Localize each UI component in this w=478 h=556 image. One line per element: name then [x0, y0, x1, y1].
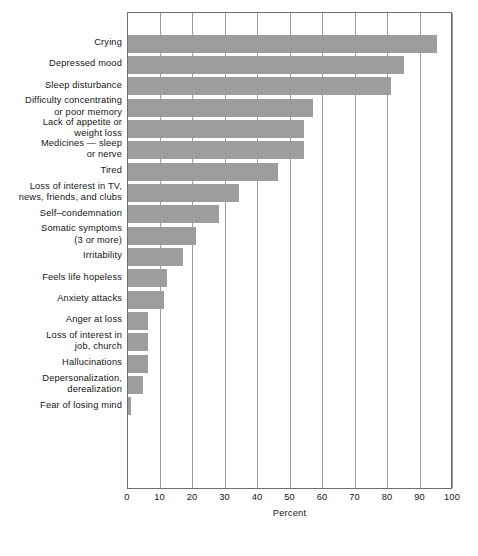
bar-fill [128, 120, 304, 138]
bar-fill [128, 77, 391, 95]
bar [128, 227, 196, 245]
x-tick-label: 20 [187, 491, 198, 503]
category-label: Loss of interest in TV, news, friends, a… [0, 181, 122, 204]
x-tick-label: 10 [154, 491, 165, 503]
category-label: Fear of losing mind [0, 400, 122, 412]
bar [128, 248, 183, 266]
x-tick-label: 90 [414, 491, 425, 503]
bar [128, 376, 143, 394]
bar [128, 355, 148, 373]
bar [128, 77, 391, 95]
bar-fill [128, 312, 148, 330]
bar-fill [128, 269, 167, 287]
bar [128, 35, 437, 53]
bar-fill [128, 291, 164, 309]
category-label: Depressed mood [0, 58, 122, 70]
bar [128, 205, 219, 223]
x-tick-label: 30 [219, 491, 230, 503]
bar-fill [128, 205, 219, 223]
bar [128, 120, 304, 138]
bar-fill [128, 355, 148, 373]
category-label: Depersonalization, derealization [0, 373, 122, 396]
category-label: Self–condemnation [0, 208, 122, 220]
bars-layer [128, 13, 451, 488]
bar-fill [128, 99, 313, 117]
x-axis-title: Percent [127, 508, 452, 518]
bar [128, 397, 131, 415]
x-tick-label: 50 [284, 491, 295, 503]
bar-fill [128, 397, 131, 415]
category-label: Loss of interest in job, church [0, 330, 122, 353]
category-label: Anger at loss [0, 314, 122, 326]
x-tick-label: 80 [382, 491, 393, 503]
bar-fill [128, 35, 437, 53]
bar [128, 312, 148, 330]
bar [128, 269, 167, 287]
bar [128, 184, 239, 202]
category-labels: CryingDepressed moodSleep disturbanceDif… [0, 12, 122, 489]
category-label: Hallucinations [0, 357, 122, 369]
category-label: Irritability [0, 250, 122, 262]
bar [128, 333, 148, 351]
plot-area [127, 12, 452, 489]
x-tick-label: 60 [317, 491, 328, 503]
bar-fill [128, 141, 304, 159]
bar [128, 141, 304, 159]
bar-fill [128, 56, 404, 74]
bar-fill [128, 163, 278, 181]
bar-fill [128, 376, 143, 394]
x-tick-label: 70 [349, 491, 360, 503]
bar-fill [128, 184, 239, 202]
bar [128, 163, 278, 181]
category-label: Somatic symptoms (3 or more) [0, 223, 122, 246]
x-tick-label: 100 [444, 491, 460, 503]
bar [128, 56, 404, 74]
category-label: Medicines — sleep or nerve [0, 138, 122, 161]
bar-fill [128, 227, 196, 245]
category-label: Crying [0, 37, 122, 49]
x-tick-label: 40 [252, 491, 263, 503]
bar-fill [128, 248, 183, 266]
gridline [452, 13, 453, 488]
bar-chart: CryingDepressed moodSleep disturbanceDif… [0, 0, 478, 556]
bar [128, 99, 313, 117]
category-label: Feels life hopeless [0, 272, 122, 284]
category-label: Anxiety attacks [0, 293, 122, 305]
x-tick-label: 0 [124, 491, 129, 503]
category-label: Lack of appetite or weight loss [0, 117, 122, 140]
bar [128, 291, 164, 309]
x-axis-ticks: 0102030405060708090100 [127, 491, 452, 507]
category-label: Difficulty concentrating or poor memory [0, 95, 122, 118]
category-label: Tired [0, 165, 122, 177]
bar-fill [128, 333, 148, 351]
category-label: Sleep disturbance [0, 80, 122, 92]
